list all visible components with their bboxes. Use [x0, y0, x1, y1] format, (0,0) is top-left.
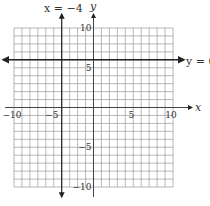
- y-tick-label: 5: [86, 63, 92, 73]
- x-tick-label: −5: [45, 110, 59, 120]
- x-tick-label: 10: [165, 110, 177, 120]
- horizontal-line-label: y = 6: [185, 55, 210, 68]
- x-tick-label: 5: [128, 110, 134, 120]
- y-tick-label: −10: [73, 182, 92, 192]
- y-tick-label: −5: [78, 142, 92, 152]
- y-axis-label: y: [89, 0, 97, 13]
- y-tick-label: 10: [80, 23, 92, 33]
- x-tick-label: −10: [3, 110, 22, 120]
- axes: [5, 14, 192, 197]
- coordinate-plane: −10−5510105−5−10 x y x = −4 y = 6: [0, 0, 210, 206]
- vertical-line-label: x = −4: [44, 2, 83, 15]
- x-axis-label: x: [195, 101, 202, 114]
